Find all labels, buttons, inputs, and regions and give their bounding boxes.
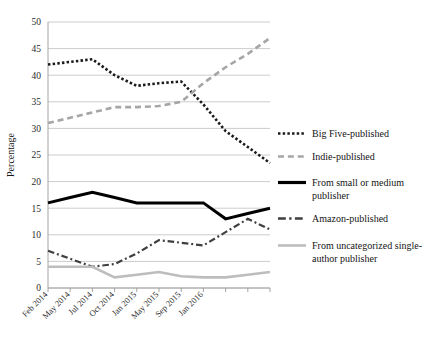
- y-axis-tick-label: 45: [32, 44, 42, 54]
- legend-label-3: Amazon-published: [312, 213, 388, 224]
- y-axis-tick-label: 35: [32, 97, 42, 107]
- legend-label-4: From uncategorized single-: [312, 240, 422, 251]
- legend-label-1: Indie-published: [312, 151, 375, 162]
- y-axis-tick-label: 25: [32, 150, 42, 160]
- axes: [48, 22, 270, 292]
- series-line-3: [48, 219, 270, 267]
- legend-label-2: publisher: [312, 190, 350, 201]
- series-line-4: [48, 267, 270, 278]
- x-axis-tick-label: Jan 2016: [176, 289, 205, 318]
- series-line-1: [48, 38, 270, 123]
- y-axis-title: Percentage: [5, 133, 16, 177]
- line-chart: 05101520253035404550 Feb 2014May 2014Jul…: [0, 0, 431, 347]
- y-axis-tick-label: 20: [32, 177, 42, 187]
- y-axis-title-text: Percentage: [5, 133, 16, 177]
- y-axis-tick-label: 5: [36, 257, 41, 267]
- data-series: [48, 38, 270, 277]
- y-axis-tick-label: 10: [32, 230, 42, 240]
- chart-canvas: 05101520253035404550 Feb 2014May 2014Jul…: [0, 0, 431, 347]
- chart-legend: Big Five-publishedIndie-publishedFrom sm…: [278, 128, 422, 264]
- y-axis-tick-label: 40: [32, 71, 42, 81]
- y-axis-tick-labels: 05101520253035404550: [32, 17, 42, 293]
- gridlines: [48, 22, 270, 288]
- legend-label-0: Big Five-published: [312, 128, 389, 139]
- y-axis-tick-label: 15: [32, 204, 42, 214]
- x-axis-tick-labels: Feb 2014May 2014Jul 2014Oct 2014Jan 2015…: [20, 289, 205, 321]
- legend-label-2: From small or medium: [312, 177, 404, 188]
- series-line-2: [48, 192, 270, 219]
- y-axis-tick-label: 50: [32, 17, 42, 27]
- y-axis-tick-label: 30: [32, 124, 42, 134]
- legend-label-4: author publisher: [312, 253, 378, 264]
